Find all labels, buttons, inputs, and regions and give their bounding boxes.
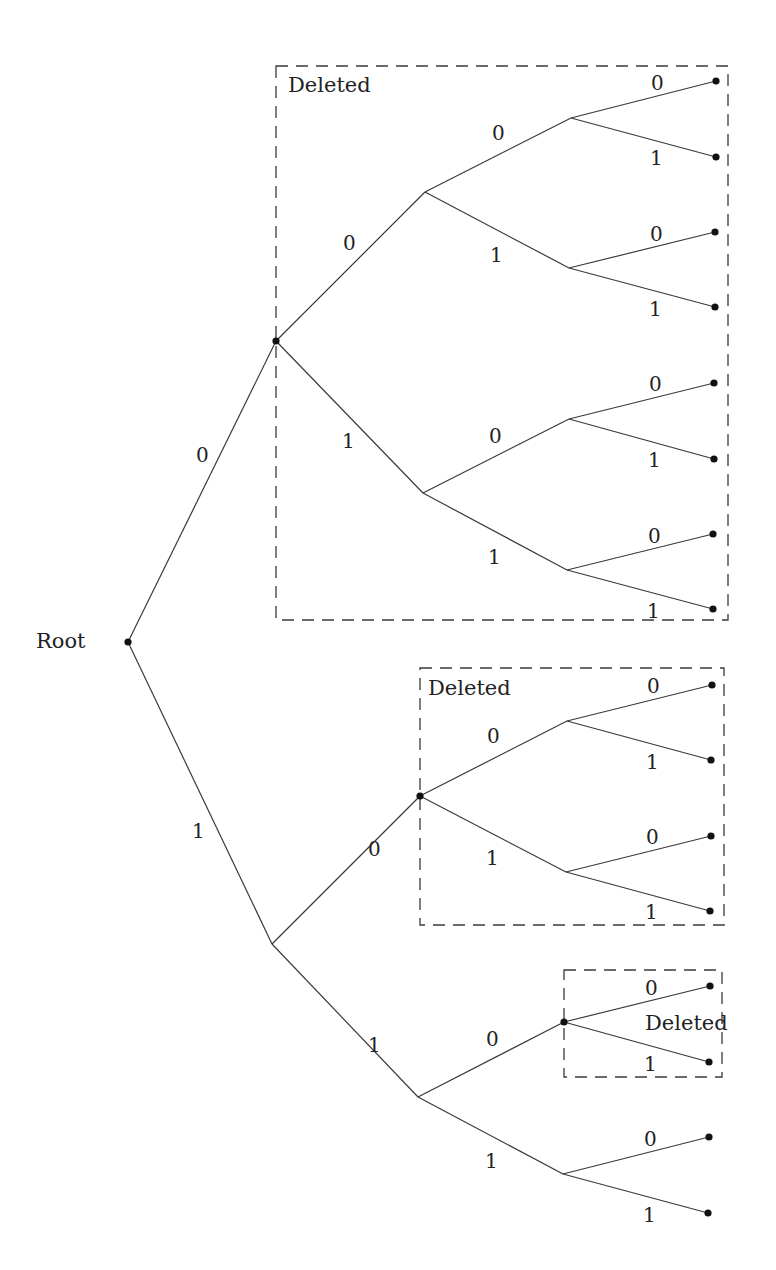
edge-label: 1: [342, 429, 355, 453]
edge-label: 0: [487, 724, 500, 748]
deleted-label: Deleted: [645, 1011, 728, 1035]
edge-label: 0: [492, 121, 505, 145]
edge-label: 1: [485, 1149, 498, 1173]
edge-101-1011: [566, 872, 710, 911]
binary-tree-diagram: DeletedDeletedDeleted 010101010101010101…: [0, 0, 776, 1270]
edge-label: 1: [647, 599, 660, 623]
edge-root-1: [128, 642, 272, 944]
deleted-boxes: DeletedDeletedDeleted: [276, 66, 728, 1077]
root-label: Root: [36, 629, 86, 653]
edge-label: 1: [649, 297, 662, 321]
node-0001: [712, 153, 719, 160]
node-1011: [706, 907, 713, 914]
node-110: [560, 1018, 567, 1025]
edge-label: 0: [343, 231, 356, 255]
node-1001: [707, 756, 714, 763]
edge-001-0011: [569, 268, 715, 307]
edge-0-01: [276, 341, 423, 493]
node-root: [124, 638, 131, 645]
edge-label: 1: [488, 545, 501, 569]
node-0101: [710, 455, 717, 462]
deleted-label: Deleted: [288, 73, 371, 97]
edge-label: 1: [646, 750, 659, 774]
edge-label: 0: [645, 976, 658, 1000]
node-1101: [705, 1058, 712, 1065]
edge-label: 1: [486, 846, 499, 870]
node-0011: [711, 303, 718, 310]
edge-111-1110: [563, 1137, 709, 1174]
edge-label: 0: [196, 443, 209, 467]
node-0010: [711, 228, 718, 235]
edge-011-0111: [567, 570, 713, 609]
edge-001-0010: [569, 232, 715, 268]
edge-label: 1: [645, 900, 658, 924]
edge-label: 1: [650, 146, 663, 170]
edge-1-10: [272, 796, 420, 944]
edge-label: 0: [649, 372, 662, 396]
edge-label: 0: [644, 1127, 657, 1151]
edge-100-1000: [567, 685, 712, 721]
edge-labels: 010101010101010101010101010101: [192, 71, 664, 1227]
edge-000-0000: [571, 81, 716, 118]
edge-label: 1: [192, 819, 205, 843]
node-0100: [710, 379, 717, 386]
deleted-label: Deleted: [428, 676, 511, 700]
edge-010-0101: [569, 419, 714, 459]
edge-label: 0: [648, 524, 661, 548]
node-0110: [709, 530, 716, 537]
edge-label: 1: [644, 1052, 657, 1076]
node-1111: [704, 1209, 711, 1216]
edge-label: 0: [646, 825, 659, 849]
edge-011-0110: [567, 534, 713, 570]
node-0111: [709, 605, 716, 612]
edge-root-0: [128, 341, 276, 642]
edge-010-0100: [569, 383, 714, 419]
node-0000: [712, 77, 719, 84]
node-1000: [708, 681, 715, 688]
node-10: [416, 792, 423, 799]
tree-nodes: [124, 77, 719, 1216]
edge-1-11: [272, 944, 418, 1097]
edge-label: 0: [651, 71, 664, 95]
node-1010: [707, 832, 714, 839]
edge-label: 0: [650, 222, 663, 246]
edge-label: 0: [647, 674, 660, 698]
edge-111-1111: [563, 1174, 708, 1213]
edge-label: 1: [490, 243, 503, 267]
box-subtree-10: [420, 668, 724, 925]
edge-label: 0: [489, 424, 502, 448]
tree-edges: [128, 81, 716, 1213]
edge-label: 1: [643, 1203, 656, 1227]
node-1100: [706, 982, 713, 989]
edge-label: 0: [368, 837, 381, 861]
edge-000-0001: [571, 118, 716, 157]
edge-100-1001: [567, 721, 711, 760]
node-0: [272, 337, 279, 344]
edge-label: 1: [648, 448, 661, 472]
edge-label: 1: [368, 1033, 381, 1057]
edge-101-1010: [566, 836, 711, 872]
edge-0-00: [276, 192, 425, 341]
edge-label: 0: [486, 1027, 499, 1051]
node-1110: [705, 1133, 712, 1140]
